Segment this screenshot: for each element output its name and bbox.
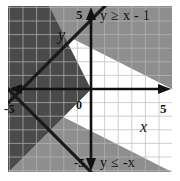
origin-label: 0	[76, 99, 82, 111]
x-axis-tick-label-negative-5: -5	[4, 102, 15, 115]
coordinate-plane	[8, 6, 172, 172]
inequality-graph-figure: 5 -5 -5 5 0 y x y ≥ x - 1 y ≤ -x	[0, 0, 180, 181]
inequality-label-bottom: y ≤ -x	[100, 156, 135, 170]
plot-svg	[8, 6, 172, 172]
y-axis-name-label: y	[58, 27, 65, 43]
inequality-label-top: y ≥ x - 1	[100, 9, 150, 23]
y-axis-tick-label-positive-5: 5	[76, 8, 83, 21]
x-axis-tick-label-positive-5: 5	[160, 102, 167, 115]
x-axis-name-label: x	[140, 119, 147, 135]
y-axis-tick-label-negative-5: -5	[74, 156, 85, 169]
